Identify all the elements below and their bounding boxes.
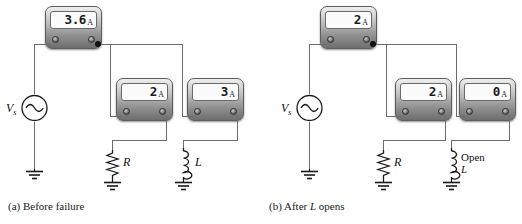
- meter-value: 0: [493, 86, 500, 98]
- resistor-label-a: R: [123, 155, 130, 170]
- meter-screen: 3 A: [192, 83, 239, 101]
- inductor-branch-meter-a[interactable]: 3 A: [187, 78, 244, 121]
- meter-terminal-left[interactable]: [123, 108, 130, 115]
- wire-to-resistor-meter: [386, 44, 387, 116]
- wire-resistor-meter-out: [445, 116, 446, 140]
- wire-node-bus: [372, 44, 457, 45]
- meter-value: 2: [150, 86, 157, 98]
- meter-screen: 2 A: [400, 83, 447, 101]
- ground-icon-inductor-b: [442, 180, 461, 192]
- meter-unit: A: [437, 91, 443, 100]
- meter-unit: A: [362, 19, 368, 28]
- ground-icon-source-a: [25, 169, 44, 181]
- meter-value: 3: [221, 86, 228, 98]
- meter-value: 3.6: [65, 14, 87, 26]
- inductor-label-a: L: [195, 155, 202, 170]
- meter-unit: A: [501, 91, 507, 100]
- inductor-label-b: L: [461, 163, 485, 175]
- resistor-branch-meter-b[interactable]: 2 A: [395, 78, 452, 121]
- inductor-icon-b: [444, 148, 459, 180]
- wire-source-to-ground: [309, 122, 310, 170]
- meter-terminal-right[interactable]: [159, 108, 166, 115]
- circuit-figure: 3.6 A 2 A 3 A: [0, 0, 522, 224]
- caption-text-before: After: [284, 200, 310, 212]
- source-label-sub: s: [288, 108, 291, 117]
- wire-source-left-vertical: [309, 44, 310, 94]
- meter-terminal-left[interactable]: [402, 108, 409, 115]
- junction-node: [370, 41, 376, 47]
- inductor-open-label-b: Open L: [461, 151, 485, 175]
- wire-source-to-meter: [309, 44, 326, 45]
- caption-prefix: (a): [8, 200, 20, 212]
- caption-text-after: opens: [316, 200, 344, 212]
- wire-inductor-meter-out: [237, 116, 238, 140]
- resistor-label-b: R: [394, 155, 401, 170]
- wire-resistor-top: [383, 140, 446, 141]
- total-current-meter-b[interactable]: 2 A: [320, 6, 377, 49]
- meter-value: 2: [429, 86, 436, 98]
- open-note: Open: [461, 151, 485, 163]
- resistor-icon-a: [105, 150, 120, 180]
- wire-to-resistor-meter: [110, 44, 111, 116]
- meter-unit: A: [158, 91, 164, 100]
- inductor-icon-a: [176, 148, 191, 180]
- meter-terminal-right[interactable]: [88, 36, 95, 43]
- meter-terminal-right[interactable]: [363, 36, 370, 43]
- ground-icon-resistor-a: [103, 180, 122, 192]
- wire-source-left-vertical: [34, 44, 35, 94]
- caption-text: Before failure: [23, 200, 84, 212]
- meter-screen: 2 A: [121, 83, 168, 101]
- meter-terminal-right[interactable]: [230, 108, 237, 115]
- meter-terminal-left[interactable]: [327, 36, 334, 43]
- meter-terminal-right[interactable]: [438, 108, 445, 115]
- wire-to-resistor-meter-h: [110, 116, 122, 117]
- wire-resistor-top: [112, 140, 167, 141]
- panel-after-failure: 2 A 2 A 0 A: [261, 0, 522, 224]
- ground-icon-source-b: [300, 169, 319, 181]
- wire-to-inductor-meter: [182, 44, 183, 116]
- caption-panel-a: (a) Before failure: [8, 200, 84, 212]
- wire-inductor-top: [451, 140, 510, 141]
- wire-to-inductor-meter-h: [456, 116, 465, 117]
- meter-screen: 2 A: [325, 11, 372, 29]
- source-label-sub: s: [13, 108, 16, 117]
- meter-terminal-left[interactable]: [194, 108, 201, 115]
- meter-screen: 0 A: [464, 83, 511, 101]
- ground-icon-resistor-b: [374, 180, 393, 192]
- meter-terminal-right[interactable]: [502, 108, 509, 115]
- meter-terminal-left[interactable]: [52, 36, 59, 43]
- wire-to-inductor-meter: [456, 44, 457, 116]
- meter-unit: A: [87, 19, 93, 28]
- ac-source-icon: [21, 94, 48, 122]
- caption-panel-b: (b) After L opens: [269, 200, 345, 212]
- wire-inductor-top: [183, 140, 238, 141]
- wire-source-to-ground: [34, 122, 35, 170]
- wire-source-to-meter: [34, 44, 51, 45]
- meter-terminal-left[interactable]: [466, 108, 473, 115]
- source-label-a: Vs: [6, 101, 16, 117]
- ac-source-icon: [296, 94, 323, 122]
- source-label-b: Vs: [281, 101, 291, 117]
- ground-icon-inductor-a: [174, 180, 193, 192]
- panel-before-failure: 3.6 A 2 A 3 A: [0, 0, 261, 224]
- meter-unit: A: [229, 91, 235, 100]
- wire-inductor-meter-out: [509, 116, 510, 140]
- wire-to-inductor-meter-h: [182, 116, 193, 117]
- resistor-branch-meter-a[interactable]: 2 A: [116, 78, 173, 121]
- wire-resistor-meter-out: [166, 116, 167, 140]
- total-current-meter-a[interactable]: 3.6 A: [45, 6, 102, 49]
- meter-screen: 3.6 A: [50, 11, 97, 29]
- resistor-icon-b: [376, 150, 391, 180]
- inductor-branch-meter-b[interactable]: 0 A: [459, 78, 516, 121]
- caption-prefix: (b): [269, 200, 282, 212]
- wire-to-resistor-meter-h: [386, 116, 401, 117]
- meter-value: 2: [354, 14, 361, 26]
- junction-node: [95, 41, 101, 47]
